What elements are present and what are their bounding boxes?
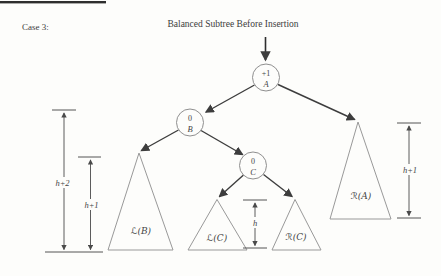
edge-a-to-right-subtree bbox=[278, 85, 355, 120]
node-b-label: B bbox=[187, 124, 192, 134]
subtree-lb-label: ℒ(B) bbox=[131, 226, 152, 236]
subtree-rc-triangle bbox=[272, 200, 321, 251]
node-c-label: C bbox=[250, 167, 256, 177]
height-label-left-inner: h+1 bbox=[84, 200, 98, 210]
node-a-balance: +1 bbox=[262, 69, 271, 78]
figure-title: Balanced Subtree Before Insertion bbox=[167, 19, 298, 29]
edge-b-to-c bbox=[201, 131, 243, 155]
height-label-center: h bbox=[253, 218, 257, 228]
figure-canvas: Case 3: Balanced Subtree Before Insertio… bbox=[0, 0, 441, 276]
height-label-left-outer: h+2 bbox=[55, 178, 70, 188]
case-label: Case 3: bbox=[22, 22, 49, 32]
avl-case3-diagram: Case 3: Balanced Subtree Before Insertio… bbox=[0, 0, 441, 276]
edge-b-to-left-subtree bbox=[142, 130, 179, 151]
height-label-right: h+1 bbox=[403, 165, 417, 175]
page-edge-rule bbox=[0, 1, 106, 3]
subtree-lc-label: ℒ(C) bbox=[207, 233, 228, 243]
edge-a-to-b bbox=[206, 85, 255, 112]
node-a-label: A bbox=[262, 79, 269, 89]
subtree-rc-label: ℛ(C) bbox=[285, 232, 307, 242]
node-b-balance: 0 bbox=[188, 114, 192, 123]
edge-c-to-left-subtree bbox=[220, 175, 244, 197]
edge-c-to-right-subtree bbox=[264, 175, 293, 197]
node-c-balance: 0 bbox=[251, 157, 255, 166]
subtree-ra-label: ℛ(A) bbox=[351, 191, 372, 201]
subtree-ra-triangle bbox=[330, 122, 391, 219]
